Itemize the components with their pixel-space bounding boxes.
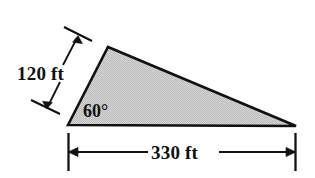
side-length-label-120ft: 120 ft	[17, 63, 65, 84]
figure-container: 120 ft 60° 330 ft	[0, 0, 315, 178]
triangle-diagram-canvas: 120 ft 60° 330 ft	[0, 0, 315, 178]
base-length-label-330ft: 330 ft	[151, 142, 199, 163]
interior-angle-label-60deg: 60°	[83, 101, 108, 121]
